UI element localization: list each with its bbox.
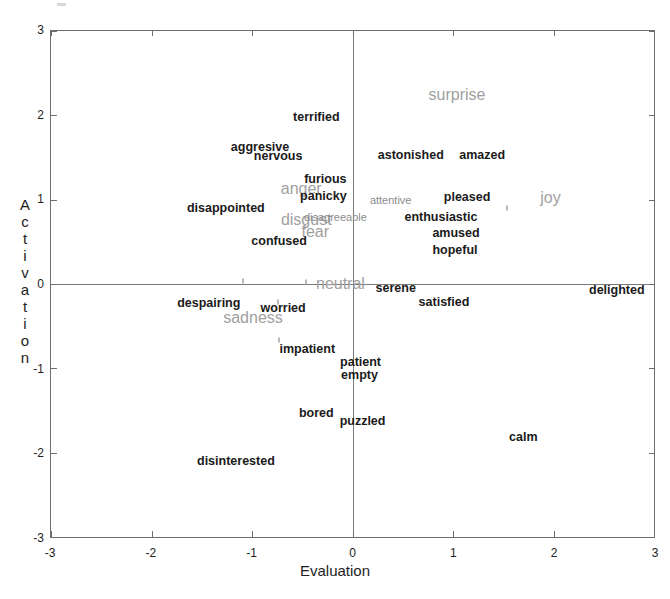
- x-tick: [554, 531, 555, 537]
- x-tick: [654, 531, 655, 537]
- y-axis-title-letter: i: [14, 247, 36, 264]
- x-tick-top: [554, 31, 555, 36]
- emotion-word-label: terrified: [293, 110, 340, 124]
- emotion-word-label: disappointed: [187, 201, 265, 215]
- emotion-word-label: disagreeable: [304, 211, 367, 223]
- y-tick-label: -2: [24, 446, 44, 460]
- x-tick-top: [654, 31, 655, 36]
- x-tick-label: -1: [246, 546, 257, 560]
- emotion-space-scatter-figure: Activation surpriseterrifiedaggresivener…: [0, 0, 670, 599]
- emotion-word-label: nervous: [254, 149, 303, 163]
- x-tick-label: -2: [145, 546, 156, 560]
- data-point-mark: [242, 278, 244, 283]
- emotion-word-label: despairing: [177, 296, 240, 310]
- x-tick-top: [453, 31, 454, 36]
- y-tick: [51, 31, 57, 32]
- x-tick: [252, 531, 253, 537]
- x-tick-top: [252, 31, 253, 36]
- x-axis-title: Evaluation: [0, 562, 670, 579]
- emotion-word-label: astonished: [378, 148, 444, 162]
- y-tick-label: 1: [24, 192, 44, 206]
- emotion-category-label: surprise: [429, 86, 486, 104]
- y-tick-right: [649, 537, 654, 538]
- emotion-word-label: impatient: [279, 342, 335, 356]
- x-tick-top: [353, 31, 354, 36]
- x-tick: [353, 531, 354, 537]
- emotion-word-label: panicky: [300, 189, 347, 203]
- x-tick-top: [152, 31, 153, 36]
- y-axis-title-letter: i: [14, 315, 36, 332]
- y-axis-title-letter: c: [14, 213, 36, 230]
- plot-area: surpriseterrifiedaggresivenervousastonis…: [50, 30, 655, 538]
- emotion-word-label: satisfied: [419, 295, 470, 309]
- emotion-category-label: neutral: [316, 275, 365, 293]
- y-tick-right: [649, 453, 654, 454]
- emotion-word-label: confused: [251, 234, 307, 248]
- x-tick-label: 3: [652, 546, 659, 560]
- y-tick-label: -3: [24, 531, 44, 545]
- emotion-word-label: serene: [376, 281, 416, 295]
- y-tick: [51, 200, 57, 201]
- y-tick-right: [649, 368, 654, 369]
- y-tick: [51, 368, 57, 369]
- x-tick-label: 2: [551, 546, 558, 560]
- emotion-category-label: sadness: [223, 309, 283, 327]
- emotion-word-label: delighted: [589, 283, 645, 297]
- y-tick-right: [649, 200, 654, 201]
- y-axis-title-letter: o: [14, 332, 36, 349]
- emotion-word-label: empty: [341, 368, 378, 382]
- x-tick-label: 0: [349, 546, 356, 560]
- y-tick-label: -1: [24, 362, 44, 376]
- emotion-word-label: calm: [509, 430, 538, 444]
- x-tick: [453, 531, 454, 537]
- y-tick-right: [649, 115, 654, 116]
- y-tick: [51, 537, 57, 538]
- emotion-word-label: amused: [432, 226, 479, 240]
- image-artifact-speck: [57, 3, 66, 6]
- y-tick: [51, 284, 57, 285]
- emotion-word-label: pleased: [444, 190, 491, 204]
- data-point-mark: [506, 206, 508, 211]
- y-tick-right: [649, 284, 654, 285]
- emotion-word-label: bored: [299, 406, 334, 420]
- x-tick-label: 1: [450, 546, 457, 560]
- emotion-word-label: disinterested: [197, 454, 275, 468]
- y-tick: [51, 115, 57, 116]
- emotion-word-label: puzzled: [340, 414, 386, 428]
- emotion-word-label: enthusiastic: [404, 210, 477, 224]
- y-tick-label: 0: [24, 277, 44, 291]
- emotion-category-label: joy: [540, 189, 560, 207]
- x-tick: [152, 531, 153, 537]
- y-axis-title-letter: t: [14, 230, 36, 247]
- emotion-word-label: attentive: [370, 194, 412, 206]
- y-tick-label: 3: [24, 23, 44, 37]
- y-tick-right: [649, 31, 654, 32]
- y-axis-title-letter: t: [14, 298, 36, 315]
- emotion-word-label: hopeful: [432, 243, 477, 257]
- y-tick-label: 2: [24, 108, 44, 122]
- emotion-word-label: amazed: [459, 148, 505, 162]
- y-tick: [51, 453, 57, 454]
- data-point-mark: [305, 280, 307, 285]
- x-tick-label: -3: [45, 546, 56, 560]
